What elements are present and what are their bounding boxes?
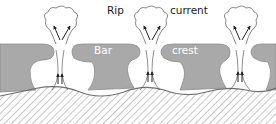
label-bar: Bar — [94, 44, 112, 56]
sandbar-4 — [251, 44, 276, 90]
label-rip: Rip — [107, 4, 124, 16]
label-crest: crest — [172, 44, 198, 56]
rip-plume-2 — [134, 6, 167, 44]
sandbar-1 — [0, 44, 54, 92]
rip-current-diagram — [0, 0, 276, 124]
label-current: current — [170, 4, 208, 16]
sandbars — [0, 44, 276, 92]
shore — [0, 87, 276, 124]
rip-plume-3 — [224, 6, 257, 44]
rip-plume-1 — [44, 6, 77, 44]
